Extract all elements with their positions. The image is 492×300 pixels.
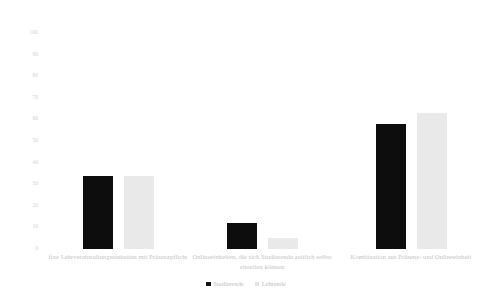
bar-lehrende — [268, 238, 298, 249]
y-axis-tick-label: 90 — [2, 52, 38, 57]
category-label: Onlineeinheiten, die sich Studierende ze… — [192, 252, 332, 271]
y-axis-tick-label: 40 — [2, 160, 38, 165]
bar-lehrende — [417, 113, 447, 249]
light-gray-square-icon — [255, 282, 260, 287]
chart-legend: StudierendeLehrende — [0, 281, 492, 287]
y-axis: 0102030405060708090100 — [0, 0, 44, 249]
bar-chart: 0102030405060708090100 fixe Lehrveransta… — [0, 0, 492, 300]
bar-studierende — [83, 176, 113, 249]
bar-lehrende — [124, 176, 154, 249]
legend-item[interactable]: Lehrende — [255, 281, 286, 287]
legend-label: Studierende — [213, 281, 244, 287]
black-square-icon — [206, 282, 211, 287]
bar-studierende — [376, 124, 406, 249]
y-axis-tick-label: 50 — [2, 138, 38, 143]
legend-label: Lehrende — [262, 281, 286, 287]
y-axis-tick-label: 0 — [2, 246, 38, 251]
y-axis-tick-label: 20 — [2, 203, 38, 208]
plot-area — [44, 33, 484, 249]
y-axis-tick-label: 30 — [2, 181, 38, 186]
category-label: fixe Lehrveranstaltungseinheiten mit Prä… — [42, 252, 194, 262]
y-axis-tick-label: 10 — [2, 225, 38, 230]
legend-item[interactable]: Studierende — [206, 281, 244, 287]
y-axis-tick-label: 70 — [2, 95, 38, 100]
y-axis-tick-label: 60 — [2, 117, 38, 122]
y-axis-tick-label: 100 — [2, 30, 38, 35]
bar-studierende — [227, 223, 257, 249]
category-label: Kombination aus Präsenz- und Onlineeinhe… — [336, 252, 486, 262]
y-axis-tick-label: 80 — [2, 73, 38, 78]
